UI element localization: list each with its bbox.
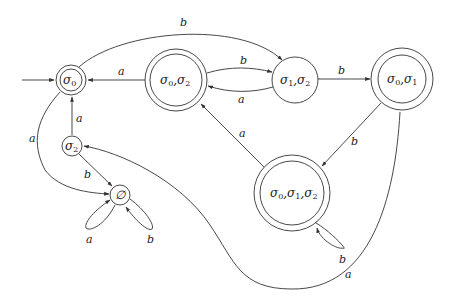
edge-label-s2-s0: a xyxy=(76,112,83,125)
edge-label-s0-s12: b xyxy=(180,16,187,29)
state-s0-s2: σ0,σ2 xyxy=(145,49,207,111)
edge-label-s12-s01: b xyxy=(338,64,345,77)
edge-label-s02-s0: a xyxy=(118,65,125,78)
edge-label-empty-loop-a: a xyxy=(86,233,93,246)
edge-empty-loop-a xyxy=(86,200,115,229)
state-s1-s2: σ1,σ2 xyxy=(272,57,318,103)
state-s2: σ2 xyxy=(62,136,82,156)
edge-s02-s12 xyxy=(207,68,272,73)
edge-label-s012-s02: a xyxy=(239,127,246,140)
edge-label-s012-loop: b xyxy=(339,253,346,266)
edge-label-s12-s02: a xyxy=(238,93,245,106)
state-s0-s1-s2: σ0,σ1,σ2 xyxy=(254,155,330,231)
edge-empty-loop-b xyxy=(126,199,153,229)
svg-text:∅: ∅ xyxy=(115,188,126,202)
state-s0-s1: σ0,σ1 xyxy=(371,48,433,110)
state-empty: ∅ xyxy=(110,185,130,205)
edge-label-s0-empty: a xyxy=(29,132,36,145)
edge-label-s2-empty: b xyxy=(84,168,91,181)
edge-s012-s02 xyxy=(201,104,264,167)
state-s0: σ0 xyxy=(56,65,86,95)
edge-label-empty-loop-b: b xyxy=(147,233,154,246)
state-diagram: b a b a b b a b a a a b a b σ0 σ0,σ xyxy=(0,0,457,301)
edge-label-s01-s2: a xyxy=(345,268,352,281)
edge-label-s02-s12: b xyxy=(240,54,247,67)
edge-s12-s02 xyxy=(208,86,273,91)
svg-text:σ0,σ1,σ2: σ0,σ1,σ2 xyxy=(270,186,318,201)
edge-label-s01-s012: b xyxy=(351,135,358,148)
